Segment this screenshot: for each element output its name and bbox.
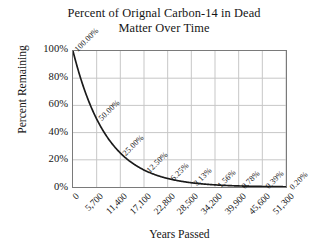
y-axis-tick-label: 20%	[22, 153, 68, 164]
y-axis-tick-label: 0%	[22, 181, 68, 192]
data-point-label: 0.20%	[288, 170, 310, 192]
y-axis-tick-label: 60%	[22, 98, 68, 109]
y-axis-tick-label: 100%	[22, 43, 68, 54]
y-axis-tick-label: 40%	[22, 126, 68, 137]
chart-title-line-1: Percent of Orignal Carbon-14 in Dead	[28, 6, 300, 21]
carbon-14-decay-chart: Percent of Orignal Carbon-14 in Dead Mat…	[0, 0, 327, 251]
y-axis-tick-label: 80%	[22, 71, 68, 82]
chart-title-line-2: Matter Over Time	[28, 21, 300, 36]
x-axis-title: Years Passed	[72, 228, 287, 241]
decay-curve	[73, 51, 286, 187]
chart-title: Percent of Orignal Carbon-14 in Dead Mat…	[28, 6, 300, 36]
plot-area: 100.00%50.00%25.00%12.50%6.25%3.13%1.56%…	[72, 50, 287, 188]
